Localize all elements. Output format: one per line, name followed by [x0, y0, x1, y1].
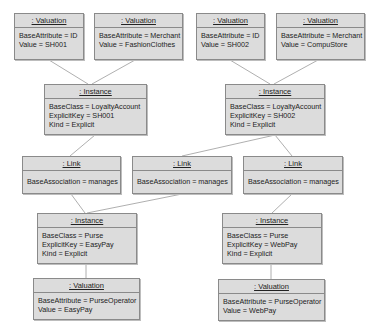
node-header: : Valuation — [15, 14, 83, 28]
edge-link1-inst3 — [71, 194, 85, 213]
instance-node-purse-webpay[interactable]: : Instance BaseClass = Purse ExplicitKey… — [222, 213, 322, 264]
node-attributes: BaseClass = Purse ExplicitKey = WebPay K… — [223, 228, 321, 261]
node-header: : Valuation — [197, 14, 264, 28]
node-attributes: BaseAssociation = manages — [133, 171, 231, 189]
instance-node-loyaltyaccount-sh001[interactable]: : Instance BaseClass = LoyaltyAccount Ex… — [44, 84, 147, 135]
instance-node-loyaltyaccount-sh002[interactable]: : Instance BaseClass = LoyaltyAccount Ex… — [225, 84, 325, 135]
edge-inst2-link2 — [182, 135, 275, 156]
node-attributes: BaseAssociation = manages — [244, 171, 342, 189]
node-attributes: BaseAttribute = ID Value = SH002 — [197, 28, 264, 52]
node-attributes: BaseAttribute = Merchant Value = Fashion… — [95, 28, 182, 52]
node-header: : Link — [23, 157, 120, 171]
node-attributes: BaseAttribute = Merchant Value = CompuSt… — [277, 28, 364, 52]
link-node-3[interactable]: : Link BaseAssociation = manages — [243, 156, 343, 194]
edge-link3-inst4 — [272, 194, 292, 213]
edge-val3-inst2 — [230, 60, 270, 84]
edge-val2-inst1 — [92, 60, 135, 84]
valuation-node-purseoperator-easypay[interactable]: : Valuation BaseAttribute = PurseOperato… — [33, 278, 140, 320]
valuation-node-id-sh002[interactable]: : Valuation BaseAttribute = ID Value = S… — [196, 13, 265, 60]
node-header: : Instance — [45, 85, 146, 99]
node-header: : Instance — [226, 85, 324, 99]
link-node-1[interactable]: : Link BaseAssociation = manages — [22, 156, 121, 194]
node-attributes: BaseClass = Purse ExplicitKey = EasyPay … — [38, 228, 136, 261]
edge-inst2-link3 — [275, 135, 292, 156]
edge-link2-inst3 — [87, 194, 182, 213]
edge-val1-inst1 — [49, 60, 88, 84]
node-header: : Link — [244, 157, 342, 171]
node-header: : Valuation — [95, 14, 182, 28]
link-node-2[interactable]: : Link BaseAssociation = manages — [132, 156, 232, 194]
node-attributes: BaseAssociation = manages — [23, 171, 120, 189]
valuation-node-merchant-fashionclothes[interactable]: : Valuation BaseAttribute = Merchant Val… — [94, 13, 183, 60]
node-header: : Valuation — [219, 280, 324, 294]
edge-val4-inst2 — [274, 60, 318, 84]
node-header: : Link — [133, 157, 231, 171]
valuation-node-purseoperator-webpay[interactable]: : Valuation BaseAttribute = PurseOperato… — [218, 279, 325, 321]
node-attributes: BaseClass = LoyaltyAccount ExplicitKey =… — [45, 99, 146, 132]
node-header: : Instance — [38, 214, 136, 228]
valuation-node-merchant-compustore[interactable]: : Valuation BaseAttribute = Merchant Val… — [276, 13, 365, 60]
node-attributes: BaseAttribute = PurseOperator Value = We… — [219, 294, 324, 318]
node-header: : Instance — [223, 214, 321, 228]
valuation-node-id-sh001[interactable]: : Valuation BaseAttribute = ID Value = S… — [14, 13, 84, 60]
node-header: : Valuation — [277, 14, 364, 28]
edge-inst1-link1 — [70, 135, 95, 156]
node-header: : Valuation — [34, 279, 139, 293]
instance-node-purse-easypay[interactable]: : Instance BaseClass = Purse ExplicitKey… — [37, 213, 137, 264]
node-attributes: BaseClass = LoyaltyAccount ExplicitKey =… — [226, 99, 324, 132]
node-attributes: BaseAttribute = ID Value = SH001 — [15, 28, 83, 52]
node-attributes: BaseAttribute = PurseOperator Value = Ea… — [34, 293, 139, 317]
